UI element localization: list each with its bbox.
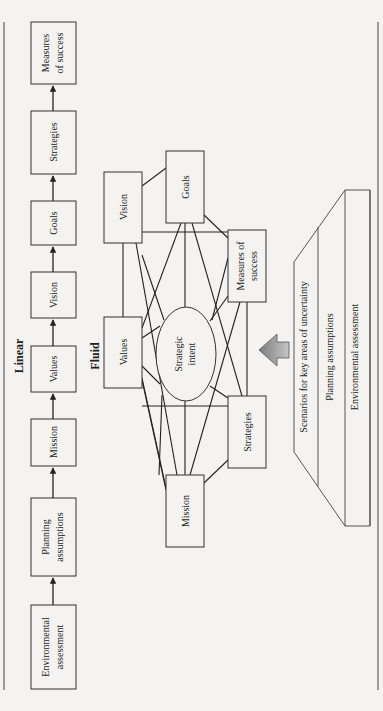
linear-label-goals: Goals <box>48 211 59 234</box>
linear-label-measures-2: of success <box>54 32 65 73</box>
fluid-label-measures-2: success <box>248 251 259 281</box>
foundation-label-scenarios: Scenarios for key areas of uncertainty <box>298 281 309 432</box>
fluid-label-vision: Vision <box>118 194 129 220</box>
fluid-node-measures-of-success <box>228 230 266 302</box>
linear-label-env-2: assessment <box>54 625 65 670</box>
fluid-label-measures-1: Measures of <box>235 241 246 291</box>
linear-label-measures-1: Measures <box>40 34 51 72</box>
foundation-label-environmental: Environmental assessment <box>349 304 360 411</box>
fluid-label-strategies: Strategies <box>242 412 253 452</box>
strategic-intent-label-2: intent <box>186 342 197 365</box>
strategic-intent-label-1: Strategic <box>173 336 184 372</box>
fluid-label-values: Values <box>118 339 129 366</box>
fluid-title: Fluid <box>88 342 102 370</box>
linear-title: Linear <box>12 338 26 373</box>
support-arrow-icon <box>259 334 289 366</box>
fluid-label-mission: Mission <box>180 495 191 527</box>
linear-label-env-1: Environmental <box>40 617 51 677</box>
linear-label-mission: Mission <box>48 426 59 458</box>
linear-label-strategies: Strategies <box>48 122 59 162</box>
fluid-label-goals: Goals <box>180 175 191 198</box>
strategic-planning-diagram: Linear Fluid Environmental assessment Pl… <box>0 0 383 711</box>
foundation-label-planning: Planning assumptions <box>324 313 335 401</box>
linear-label-vision: Vision <box>48 282 59 308</box>
linear-label-values: Values <box>48 356 59 383</box>
linear-label-planning-1: Planning <box>40 519 51 555</box>
foundation-labels: Scenarios for key areas of uncertainty P… <box>298 281 360 432</box>
linear-label-planning-2: assumptions <box>54 512 65 562</box>
